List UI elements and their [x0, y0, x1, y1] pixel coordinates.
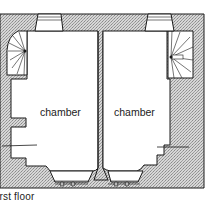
window-top-left	[35, 14, 63, 31]
window-bottom-left	[50, 171, 93, 186]
right-chamber	[103, 31, 170, 171]
room-label-right: chamber	[114, 106, 155, 118]
floor-plan: chamber chamber	[0, 0, 222, 211]
floor-caption: irst floor	[0, 191, 35, 202]
window-bottom-right	[108, 171, 143, 186]
spiral-stair-right	[168, 31, 193, 78]
room-label-left: chamber	[40, 106, 81, 118]
window-top-right	[145, 14, 174, 31]
